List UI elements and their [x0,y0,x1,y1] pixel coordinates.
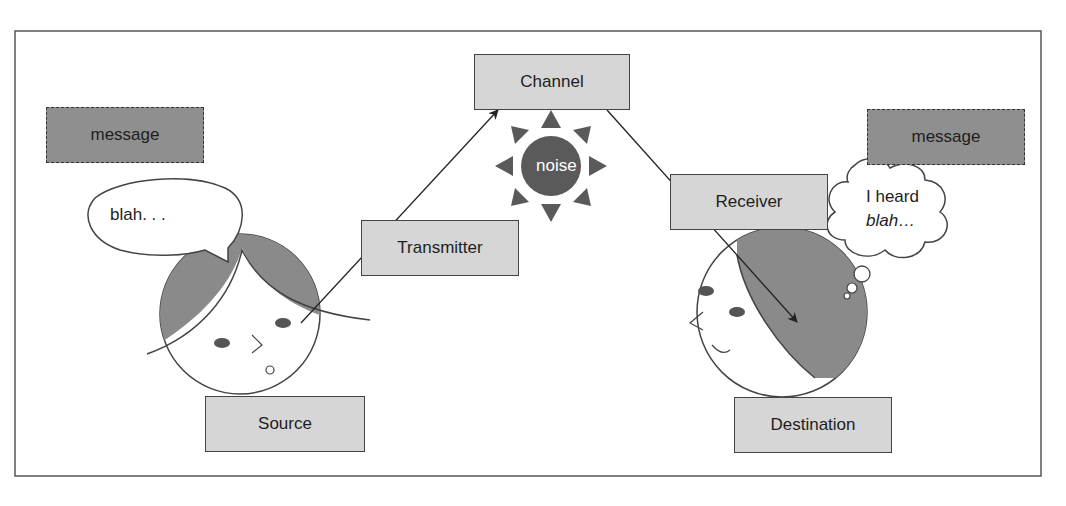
thought-text-line2: blah… [866,211,915,231]
speech-text: blah. . . [110,205,166,225]
source-box: Source [205,396,365,452]
channel-box: Channel [474,54,630,110]
message-box-left: message [46,107,204,163]
message-box-right: message [867,109,1025,165]
receiver-box: Receiver [670,174,828,230]
destination-head-icon [690,227,880,397]
edge-source-channel [301,110,498,323]
destination-box: Destination [734,397,892,453]
thought-text-line1: I heard [866,187,919,207]
noise-label: noise [536,156,577,176]
transmitter-box: Transmitter [361,220,519,276]
